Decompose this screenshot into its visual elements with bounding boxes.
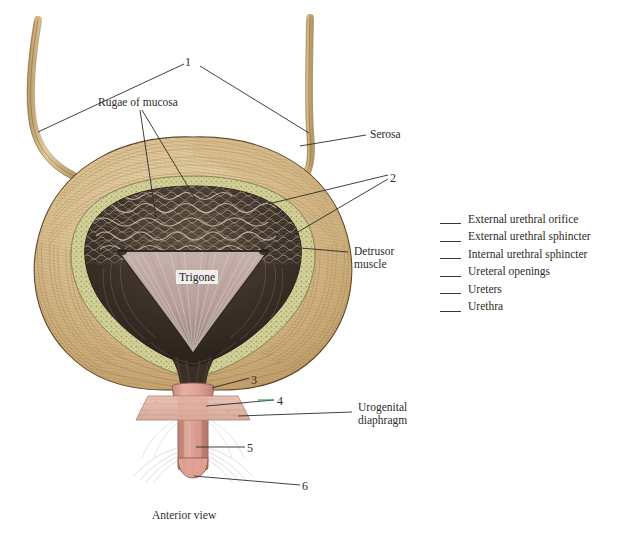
legend-item-internal-urethral-sphincter[interactable]: Internal urethral sphincter	[440, 245, 610, 263]
label-rugae-of-mucosa: Rugae of mucosa	[98, 96, 178, 109]
label-urogenital-diaphragm-line1: Urogenital	[358, 401, 407, 414]
answer-key-legend: External urethral orifice External ureth…	[440, 210, 610, 315]
legend-label: Ureteral openings	[468, 265, 550, 277]
label-trigone: Trigone	[176, 270, 218, 284]
ureteral-opening-left	[117, 249, 127, 255]
legend-label: External urethral sphincter	[468, 230, 591, 242]
figure-canvas: 1 2 3 4 5 6 Rugae of mucosa Serosa Detru…	[0, 0, 618, 539]
legend-label: Urethra	[468, 300, 503, 312]
callout-number-1: 1	[185, 55, 191, 70]
label-detrusor-muscle-line1: Detrusor	[354, 245, 394, 258]
legend-label: External urethral orifice	[468, 213, 578, 225]
legend-item-ureters[interactable]: Ureters	[440, 280, 610, 298]
legend-blank-line[interactable]	[440, 293, 461, 294]
legend-label: Ureters	[468, 283, 502, 295]
legend-label: Internal urethral sphincter	[468, 248, 587, 260]
figure-caption: Anterior view	[152, 509, 216, 521]
legend-blank-line[interactable]	[440, 276, 461, 277]
label-serosa: Serosa	[370, 128, 401, 141]
legend-item-external-urethral-orifice[interactable]: External urethral orifice	[440, 210, 610, 228]
label-detrusor-muscle-line2: muscle	[354, 258, 387, 271]
legend-blank-line[interactable]	[440, 258, 461, 259]
callout-number-5: 5	[247, 441, 253, 456]
legend-item-ureteral-openings[interactable]: Ureteral openings	[440, 263, 610, 281]
callout-number-4: 4	[277, 394, 283, 409]
legend-blank-line[interactable]	[440, 223, 461, 224]
legend-blank-line[interactable]	[440, 311, 461, 312]
legend-item-external-urethral-sphincter[interactable]: External urethral sphincter	[440, 228, 610, 246]
legend-blank-line[interactable]	[440, 241, 461, 242]
callout-number-2: 2	[390, 171, 396, 186]
callout-number-6: 6	[302, 479, 308, 494]
callout-number-3: 3	[251, 373, 257, 388]
legend-item-urethra[interactable]: Urethra	[440, 298, 610, 316]
urogenital-diaphragm	[136, 396, 250, 420]
label-urogenital-diaphragm-line2: diaphragm	[358, 414, 407, 427]
